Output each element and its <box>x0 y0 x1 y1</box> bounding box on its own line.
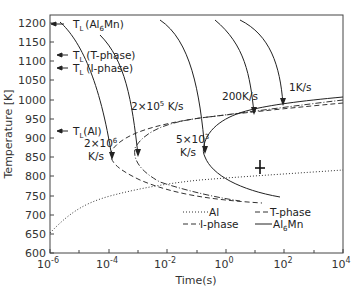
y-axis-title: Temperature [K] <box>2 90 15 180</box>
x-tick-labels: 10-6 10-4 10-2 100 102 104 <box>37 256 351 271</box>
svg-text:5×103: 5×103 <box>176 133 209 145</box>
svg-text:700: 700 <box>25 209 46 222</box>
x-axis <box>50 249 343 253</box>
svg-text:900: 900 <box>25 132 46 145</box>
svg-text:K/s: K/s <box>180 146 196 158</box>
y-axis <box>50 23 54 253</box>
svg-text:104: 104 <box>331 256 350 271</box>
tl-arrows <box>51 22 68 133</box>
svg-text:Al6Mn: Al6Mn <box>273 218 303 233</box>
svg-text:750: 750 <box>25 190 46 203</box>
svg-text:Al: Al <box>209 206 219 218</box>
y-tick-labels: 600650 700750 800850 900950 10001050 110… <box>18 17 46 260</box>
svg-text:10-6: 10-6 <box>37 256 59 271</box>
svg-text:2×106: 2×106 <box>84 137 118 149</box>
svg-text:650: 650 <box>25 228 46 241</box>
svg-text:K/s: K/s <box>88 150 104 162</box>
svg-text:2×105 K/s: 2×105 K/s <box>131 100 184 112</box>
svg-text:TL(Al6Mn): TL(Al6Mn) <box>72 18 124 33</box>
svg-text:10-2: 10-2 <box>154 256 176 271</box>
tl-labels: TL(Al6Mn) TL(T-phase) TL(I-phase) TL(Al) <box>72 18 135 140</box>
svg-text:T-phase: T-phase <box>269 206 311 218</box>
series-t-phase <box>135 100 343 201</box>
series-al6mn <box>203 97 343 197</box>
svg-text:102: 102 <box>273 256 292 271</box>
plus-marker <box>255 160 265 174</box>
svg-text:TL(I-phase): TL(I-phase) <box>72 62 133 77</box>
ttt-chart: 600650 700750 800850 900950 10001050 110… <box>0 0 364 293</box>
svg-text:200K/s: 200K/s <box>222 90 258 102</box>
svg-text:800: 800 <box>25 170 46 183</box>
x-axis-title: Time(s) <box>174 274 216 287</box>
svg-text:10-4: 10-4 <box>96 256 118 271</box>
svg-text:850: 850 <box>25 151 46 164</box>
svg-text:1150: 1150 <box>18 36 46 49</box>
svg-text:1000: 1000 <box>18 94 46 107</box>
svg-text:1050: 1050 <box>18 74 46 87</box>
svg-text:1200: 1200 <box>18 17 46 30</box>
svg-text:950: 950 <box>25 113 46 126</box>
svg-text:I-phase: I-phase <box>200 218 239 230</box>
legend: Al T-phase I-phase Al6Mn <box>183 206 311 233</box>
svg-text:1100: 1100 <box>18 55 46 68</box>
svg-text:1K/s: 1K/s <box>289 81 312 93</box>
svg-text:100: 100 <box>214 256 233 271</box>
